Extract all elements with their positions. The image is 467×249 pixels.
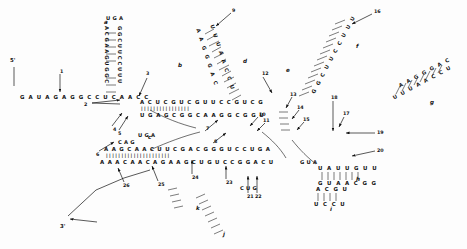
helix-label-a: a xyxy=(104,20,108,26)
helix-h-top-strand: U A U U G U U xyxy=(318,166,378,171)
site-number-17: 17 xyxy=(343,112,350,117)
site-number-18: 18 xyxy=(331,96,338,101)
helix-label-k: k xyxy=(196,206,200,212)
arrow-20 xyxy=(352,151,375,156)
helix-label-i: i xyxy=(330,207,332,213)
hairpin-a-loop: U G A xyxy=(106,16,123,21)
helix-i-rungs xyxy=(318,193,336,201)
three-prime-arrow xyxy=(70,219,97,222)
loop-text-1: U G A xyxy=(138,133,155,138)
arrow-2b xyxy=(92,103,120,104)
helix-b-top-strand: A C U C G U C G U U C C G U C G xyxy=(140,100,264,105)
site-number-2: 2 xyxy=(84,103,87,108)
arrow-25 xyxy=(152,166,158,181)
site-number-24: 24 xyxy=(192,176,199,181)
arrow-9 xyxy=(216,13,231,26)
arrow-5 xyxy=(119,116,128,130)
site-number-20: 20 xyxy=(377,149,384,154)
site-number-4: 4 xyxy=(113,128,116,133)
site-number-13: 13 xyxy=(290,93,297,98)
helix-i-top-strand: A C G U xyxy=(316,187,348,192)
site-number-3: 3 xyxy=(146,72,149,77)
site-number-23: 23 xyxy=(226,181,233,186)
site-number-15: 15 xyxy=(303,118,310,123)
arrow-2 xyxy=(92,100,120,103)
arrow-12 xyxy=(263,77,272,93)
helix-b-bottom-strand: U G A G C G G C A A G G C G G U xyxy=(140,113,265,118)
site-number-7: 7 xyxy=(206,127,209,132)
helix-label-h: h xyxy=(356,177,360,183)
site-number-25: 25 xyxy=(158,183,165,188)
arrow-15 xyxy=(297,122,304,130)
helix-c-bottom-strand: A A A C A A C A G A A G C U G U C C G G … xyxy=(100,160,274,165)
site-number-16: 16 xyxy=(374,10,381,15)
five-prime-label: 5' xyxy=(10,58,15,63)
site-number-9: 9 xyxy=(232,9,235,14)
helix-h-rungs xyxy=(322,172,358,180)
helix-label-c: c xyxy=(148,135,151,141)
loop-text-2: C A G xyxy=(118,140,135,145)
helix-label-j: j xyxy=(223,232,225,238)
arrow-13 xyxy=(286,97,292,108)
helix-label-g: g xyxy=(430,100,434,106)
helix-e-rungs xyxy=(279,112,290,130)
arrow-4 xyxy=(112,113,122,126)
site-number-22: 22 xyxy=(255,195,262,200)
arrow-14 xyxy=(292,110,299,119)
helix-label-f: f xyxy=(356,44,358,50)
three-prime-backbone-1 xyxy=(68,190,96,216)
helix-c-top-strand: A A G C A A C U U C G A C G G G U C C U … xyxy=(104,147,271,152)
helix-j-rungs xyxy=(196,194,223,234)
site-number-14: 14 xyxy=(297,106,304,111)
helix-c-rungs: ||||||||||||||||||||| xyxy=(106,154,171,159)
site-number-26: 26 xyxy=(123,184,130,189)
helix-label-b: b xyxy=(178,63,182,69)
site-number-6: 6 xyxy=(96,153,99,158)
site-number-19: 19 xyxy=(377,131,384,136)
five-prime-tail-sequence: G A U A G A G G C C U C A A C C xyxy=(20,95,149,100)
helix-k-rungs xyxy=(168,188,183,208)
structure-vector-overlay xyxy=(0,0,467,249)
helix-f-rungs xyxy=(299,20,345,96)
site-number-5: 5 xyxy=(118,132,121,137)
loop-text-4: C U G xyxy=(240,186,257,191)
site-number-8: 8 xyxy=(214,140,217,145)
site-number-21: 21 xyxy=(247,195,254,200)
three-prime-backbone-3 xyxy=(124,170,150,178)
site-number-11: 11 xyxy=(263,119,270,124)
hairpin-a-left-strand: A C G A A G U G G C xyxy=(104,26,109,83)
helix-b-rungs: |||||||||||||||| xyxy=(141,107,190,112)
site-number-1: 1 xyxy=(60,70,63,75)
three-prime-label: 3' xyxy=(60,224,65,229)
loop-text-3: G U A xyxy=(300,160,317,165)
arrow-11 xyxy=(257,123,265,131)
helix-label-e: e xyxy=(286,68,290,74)
hairpin-a-right-strand: G G C U U C C U U U xyxy=(117,26,122,83)
helix-label-d: d xyxy=(243,59,247,65)
arrow-17 xyxy=(339,117,344,127)
three-prime-backbone-2 xyxy=(96,178,124,190)
rna-structure-figure: 5' G A U A G A G G C C U C A A C C 3' A … xyxy=(0,0,467,249)
site-number-12: 12 xyxy=(262,72,269,77)
